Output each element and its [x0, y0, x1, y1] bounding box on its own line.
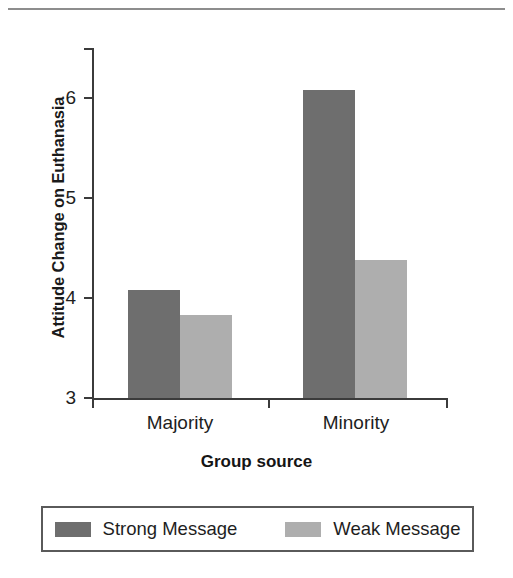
x-axis-line: [92, 398, 448, 400]
legend-swatch-strong-message: [55, 522, 91, 537]
bar-majority-weak: [180, 315, 232, 398]
page-top-rule: [8, 8, 505, 10]
bar-majority-strong: [128, 290, 180, 398]
chart-legend: Strong Message Weak Message: [41, 506, 474, 552]
y-tick-4: [84, 297, 93, 299]
x-tick-start: [92, 398, 94, 408]
legend-swatch-weak-message: [285, 522, 321, 537]
y-axis-line: [92, 48, 94, 398]
x-tick-group-divider: [268, 398, 270, 408]
y-tick-label-6: 6: [16, 88, 76, 107]
x-axis-title: Group source: [0, 452, 513, 472]
y-tick-label-5: 5: [16, 188, 76, 207]
bar-minority-weak: [355, 260, 407, 398]
figure-canvas: Attitude Change on Euthanasia 6 5 4 3 Ma…: [0, 0, 513, 578]
legend-label-strong-message: Strong Message: [103, 518, 238, 540]
x-tick-end: [446, 398, 448, 408]
y-tick-6: [84, 97, 93, 99]
plot-area: Attitude Change on Euthanasia 6 5 4 3 Ma…: [0, 40, 513, 420]
y-axis-top-cap: [84, 48, 93, 50]
x-tick-label-minority: Minority: [266, 412, 446, 434]
y-tick-5: [84, 197, 93, 199]
legend-entry-strong-message: Strong Message: [55, 518, 238, 540]
legend-label-weak-message: Weak Message: [333, 518, 460, 540]
y-tick-label-3: 3: [16, 388, 76, 407]
bar-minority-strong: [303, 90, 355, 398]
x-tick-label-majority: Majority: [90, 412, 270, 434]
legend-entry-weak-message: Weak Message: [285, 518, 460, 540]
y-tick-label-4: 4: [16, 288, 76, 307]
